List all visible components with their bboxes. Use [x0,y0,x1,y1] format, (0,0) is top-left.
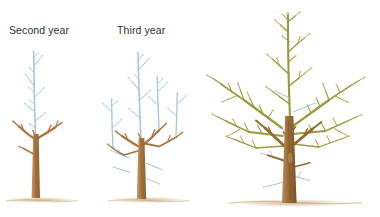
tree-mature [206,11,366,203]
tree2-scaffold-branches [108,124,182,155]
stage-label-second-year: Second year [9,25,69,36]
tree1-new-growth [25,52,44,135]
tree3-trunk-texture [288,153,293,164]
ground-layer [2,197,362,208]
tree-third-year [102,52,187,199]
tree-second-year [12,50,63,198]
tree-growth-figure: Second year Third year [0,0,380,217]
stage-label-third-year: Third year [117,25,165,36]
